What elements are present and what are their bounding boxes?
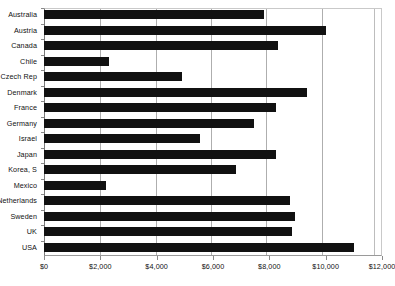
bar-usa bbox=[44, 243, 354, 252]
x-axis-tick bbox=[44, 256, 45, 260]
x-axis-label: $4,000 bbox=[145, 262, 168, 271]
y-axis-tick bbox=[41, 179, 44, 180]
bar-australia bbox=[44, 10, 264, 19]
y-axis-label: Czech Rep bbox=[1, 73, 37, 81]
x-axis-label: $2,000 bbox=[89, 262, 112, 271]
bar-netherlands bbox=[44, 196, 290, 205]
bar-japan bbox=[44, 150, 276, 159]
y-axis-label: France bbox=[14, 104, 37, 112]
y-axis-tick bbox=[41, 8, 44, 9]
bar-korea-s bbox=[44, 165, 236, 174]
bar-row bbox=[44, 86, 382, 102]
y-axis-labels: AustraliaAustriaCanadaChileCzech RepDenm… bbox=[0, 8, 41, 256]
bar-row bbox=[44, 148, 382, 164]
x-axis-label: $12,000 bbox=[369, 262, 395, 271]
y-axis-label: Germany bbox=[7, 120, 37, 128]
x-axis-tick bbox=[157, 256, 158, 260]
bar-germany bbox=[44, 119, 254, 128]
x-axis-labels: $0$2,000$4,000$6,000$8,000$10,000$12,000 bbox=[0, 262, 392, 278]
bar-czech-rep bbox=[44, 72, 182, 81]
y-axis-tick bbox=[41, 163, 44, 164]
x-axis-label: $8,000 bbox=[258, 262, 281, 271]
y-axis-tick bbox=[41, 148, 44, 149]
bar-france bbox=[44, 103, 276, 112]
bar-denmark bbox=[44, 88, 307, 97]
y-axis-label: Australia bbox=[8, 11, 37, 19]
bar-sweden bbox=[44, 212, 295, 221]
y-axis-label: USA bbox=[22, 244, 37, 252]
x-axis-tick bbox=[100, 256, 101, 260]
bar-row bbox=[44, 163, 382, 179]
y-axis-label: UK bbox=[27, 228, 37, 236]
x-axis-label: $6,000 bbox=[202, 262, 225, 271]
x-axis-label: $0 bbox=[40, 262, 48, 271]
bar-row bbox=[44, 241, 382, 257]
x-axis-tick bbox=[326, 256, 327, 260]
y-axis-label: Canada bbox=[11, 42, 37, 50]
bar-uk bbox=[44, 227, 292, 236]
bar-mexico bbox=[44, 181, 106, 190]
bar-row bbox=[44, 179, 382, 195]
y-axis-label: Israel bbox=[19, 135, 37, 143]
bar-row bbox=[44, 210, 382, 226]
y-axis-tick bbox=[41, 55, 44, 56]
y-axis-tick bbox=[41, 225, 44, 226]
bar-chile bbox=[44, 57, 109, 66]
y-axis-tick bbox=[41, 194, 44, 195]
bar-israel bbox=[44, 134, 200, 143]
bar-row bbox=[44, 55, 382, 71]
bar-canada bbox=[44, 41, 278, 50]
y-axis-tick bbox=[41, 241, 44, 242]
x-axis-label: $10,000 bbox=[312, 262, 339, 271]
y-axis-tick bbox=[41, 39, 44, 40]
bar-row bbox=[44, 194, 382, 210]
y-axis-tick bbox=[41, 101, 44, 102]
y-axis-label: Mexico bbox=[14, 182, 37, 190]
y-axis-tick bbox=[41, 117, 44, 118]
y-axis-label: Austria bbox=[14, 27, 37, 35]
x-axis-tick bbox=[382, 256, 383, 260]
bar-row bbox=[44, 39, 382, 55]
bar-row bbox=[44, 132, 382, 148]
x-axis-tick bbox=[269, 256, 270, 260]
y-axis-tick bbox=[41, 86, 44, 87]
bar-austria bbox=[44, 26, 326, 35]
bar-row bbox=[44, 24, 382, 40]
y-axis-label: Chile bbox=[20, 58, 37, 66]
bars-layer bbox=[44, 8, 382, 256]
y-axis-tick bbox=[41, 24, 44, 25]
bar-row bbox=[44, 101, 382, 117]
y-axis-tick bbox=[41, 210, 44, 211]
y-axis-tick bbox=[41, 132, 44, 133]
y-axis-label: Korea, S bbox=[8, 166, 37, 174]
y-axis-label: Japan bbox=[17, 151, 37, 159]
bar-row bbox=[44, 225, 382, 241]
y-axis-tick bbox=[41, 70, 44, 71]
y-axis-label: Denmark bbox=[7, 89, 37, 97]
bar-row bbox=[44, 8, 382, 24]
bar-row bbox=[44, 70, 382, 86]
y-axis-label: Netherlands bbox=[0, 197, 37, 205]
bar-row bbox=[44, 117, 382, 133]
x-axis-tick bbox=[213, 256, 214, 260]
y-axis-label: Sweden bbox=[10, 213, 37, 221]
